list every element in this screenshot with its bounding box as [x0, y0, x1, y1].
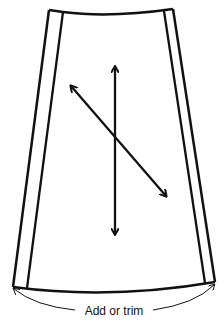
diagonal-arrow-icon: [71, 86, 166, 196]
right-outer-edge: [173, 9, 215, 282]
right-inner-line: [164, 11, 205, 283]
left-outer-edge: [13, 10, 49, 287]
add-or-trim-label: Add or trim: [85, 304, 144, 318]
waist-edge: [49, 9, 173, 14]
hem-edge: [13, 282, 215, 292]
skirt-pattern-diagram: Add or trim: [0, 0, 224, 333]
left-inner-line: [27, 12, 63, 288]
